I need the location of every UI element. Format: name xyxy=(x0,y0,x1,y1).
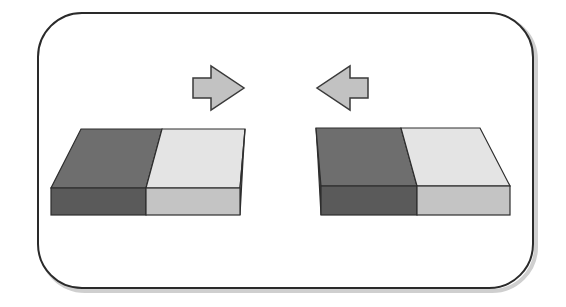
left-slab-light-front xyxy=(146,188,240,215)
right-slab xyxy=(316,128,510,215)
diagram-canvas xyxy=(0,0,566,307)
left-slab-dark-front xyxy=(51,188,146,215)
right-slab-light-front xyxy=(417,186,510,215)
left-slab xyxy=(51,129,245,215)
left-slab-light-top xyxy=(146,129,245,188)
right-slab-dark-top xyxy=(316,128,417,186)
right-slab-dark-front xyxy=(321,186,417,215)
